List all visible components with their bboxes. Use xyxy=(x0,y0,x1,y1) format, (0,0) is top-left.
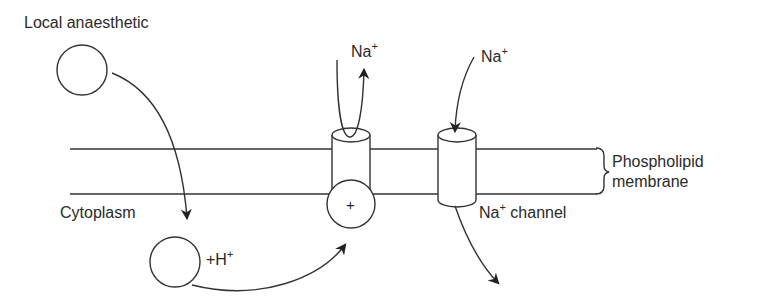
charged-symbol: + xyxy=(346,197,355,212)
na-influx-arrow-icon xyxy=(455,57,474,131)
na-ion-left-label: Na+ xyxy=(351,44,378,60)
na-ion-right-label: Na+ xyxy=(481,49,508,65)
membrane-brace-icon xyxy=(596,148,609,194)
membrane-label: Phospholipid membrane xyxy=(612,152,704,192)
open-na-channel xyxy=(438,128,476,207)
protonated-molecule-icon xyxy=(150,237,200,287)
cytoplasm-label: Cytoplasm xyxy=(60,205,136,221)
local-anaesthetic-label: Local anaesthetic xyxy=(24,15,149,31)
local-anaesthetic-molecule-icon xyxy=(57,45,107,95)
diffusion-arrow-icon xyxy=(112,73,187,218)
protonation-label: +H+ xyxy=(206,252,233,268)
na-channel-label: Na+ channel xyxy=(479,205,566,221)
na-repelled-arrow-icon xyxy=(337,60,364,137)
